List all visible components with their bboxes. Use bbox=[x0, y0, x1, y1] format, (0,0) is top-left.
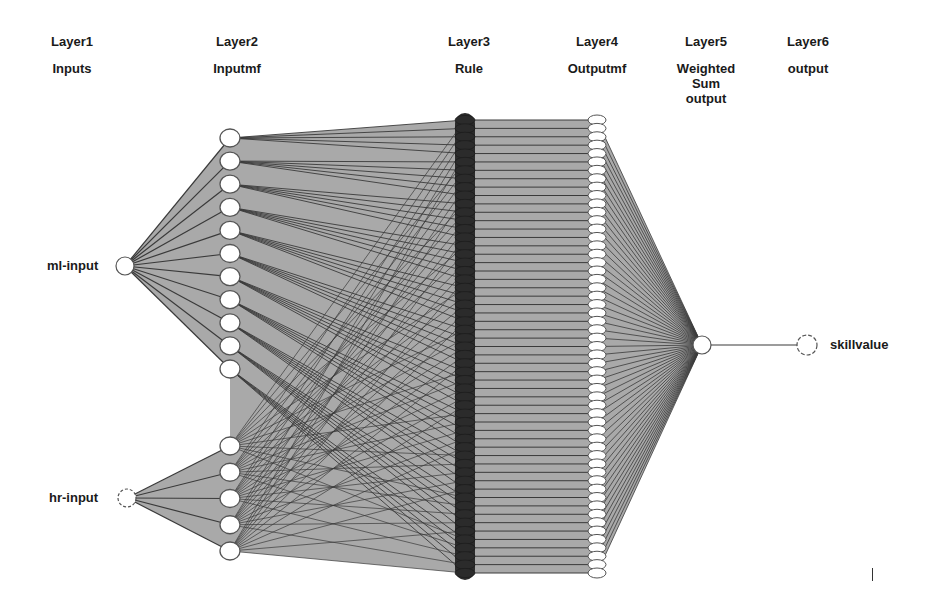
input-mf-node bbox=[220, 337, 240, 355]
rule-node bbox=[455, 250, 475, 259]
rule-node bbox=[455, 510, 475, 519]
input-mf-node bbox=[220, 314, 240, 332]
rule-node bbox=[455, 174, 475, 183]
rule-node bbox=[455, 568, 475, 577]
input-mf-node bbox=[220, 437, 240, 455]
rule-node bbox=[455, 233, 475, 242]
rule-node bbox=[455, 518, 475, 527]
rule-node bbox=[455, 149, 475, 158]
hr-input-node bbox=[118, 489, 136, 507]
rule-node bbox=[455, 124, 475, 133]
rule-node bbox=[455, 552, 475, 561]
rule-node bbox=[455, 115, 475, 124]
rule-node bbox=[455, 501, 475, 510]
rule-node bbox=[455, 493, 475, 502]
rule-node bbox=[455, 485, 475, 494]
input-mf-node bbox=[220, 463, 240, 481]
rule-node bbox=[455, 468, 475, 477]
rule-node bbox=[455, 308, 475, 317]
rule-node bbox=[455, 157, 475, 166]
rule-node bbox=[455, 359, 475, 368]
input-mf-node bbox=[220, 360, 240, 378]
rule-node bbox=[455, 409, 475, 418]
rule-node bbox=[455, 443, 475, 452]
rule-node bbox=[455, 342, 475, 351]
rule-node bbox=[455, 375, 475, 384]
rule-node bbox=[455, 292, 475, 301]
rule-node bbox=[455, 191, 475, 200]
rule-node bbox=[455, 224, 475, 233]
rule-node bbox=[455, 300, 475, 309]
rule-node bbox=[455, 334, 475, 343]
rule-node bbox=[455, 384, 475, 393]
rule-node bbox=[455, 451, 475, 460]
rule-node bbox=[455, 283, 475, 292]
rule-node bbox=[455, 132, 475, 141]
input-mf-node bbox=[220, 198, 240, 216]
text-cursor-mark bbox=[872, 568, 873, 581]
input-mf-node bbox=[220, 542, 240, 560]
input-mf-node bbox=[220, 516, 240, 534]
rule-node bbox=[455, 208, 475, 217]
rule-node bbox=[455, 266, 475, 275]
input-mf-node bbox=[220, 291, 240, 309]
rule-node bbox=[455, 141, 475, 150]
rule-node bbox=[455, 560, 475, 569]
rule-node bbox=[455, 417, 475, 426]
ml-input-node bbox=[116, 257, 134, 275]
rule-node bbox=[455, 317, 475, 326]
input-mf-node bbox=[220, 129, 240, 147]
rule-node bbox=[455, 258, 475, 267]
rule-node bbox=[455, 367, 475, 376]
rule-node bbox=[455, 426, 475, 435]
output-mf-node bbox=[588, 568, 606, 578]
output-label: skillvalue bbox=[830, 337, 889, 352]
rule-node bbox=[455, 275, 475, 284]
rule-node bbox=[455, 325, 475, 334]
rule-node bbox=[455, 199, 475, 208]
rule-node bbox=[455, 543, 475, 552]
input-mf-node bbox=[220, 152, 240, 170]
rule-node bbox=[455, 183, 475, 192]
rule-node bbox=[455, 166, 475, 175]
weighted-sum-node bbox=[693, 336, 711, 354]
input-mf-node bbox=[220, 490, 240, 508]
hr-input-label: hr-input bbox=[49, 490, 98, 505]
rule-node bbox=[455, 459, 475, 468]
output-node bbox=[797, 335, 817, 355]
rule-node bbox=[455, 434, 475, 443]
input-mf-node bbox=[220, 245, 240, 263]
input-mf-node bbox=[220, 221, 240, 239]
rule-node bbox=[455, 476, 475, 485]
ml-input-label: ml-input bbox=[47, 258, 98, 273]
rule-node bbox=[455, 526, 475, 535]
rule-node bbox=[455, 241, 475, 250]
rule-node bbox=[455, 401, 475, 410]
input-mf-node bbox=[220, 175, 240, 193]
rule-node bbox=[455, 350, 475, 359]
rule-node bbox=[455, 392, 475, 401]
input-mf-node bbox=[220, 268, 240, 286]
rule-node bbox=[455, 216, 475, 225]
anfis-network-diagram bbox=[0, 0, 946, 613]
rule-node bbox=[455, 535, 475, 544]
